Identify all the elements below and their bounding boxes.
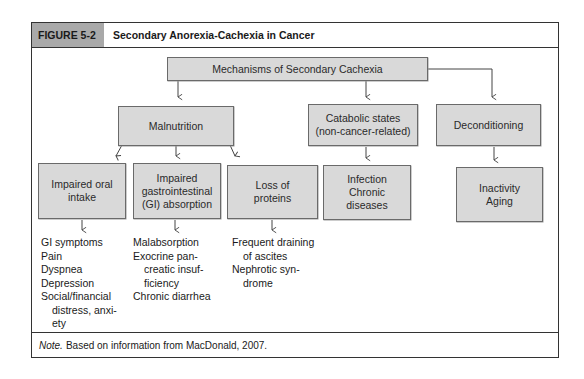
list-item: distress, anxi- — [41, 304, 117, 318]
inactivity-label-1: Inactivity — [479, 182, 520, 195]
list-item: of ascites — [232, 250, 314, 264]
malnutrition-label: Malnutrition — [149, 120, 203, 133]
list-protein-loss-causes: Frequent draining of ascites Nephrotic s… — [232, 236, 314, 290]
figure-title: Secondary Anorexia-Cachexia in Cancer — [104, 23, 315, 47]
list-gi-absorption-causes: Malabsorption Exocrine pan- creatic insu… — [133, 236, 211, 304]
oral-label-1: Impaired oral — [51, 178, 112, 191]
note-label: Note. — [39, 340, 63, 351]
box-deconditioning: Deconditioning — [436, 104, 541, 146]
box-impaired-gi-absorption: Impaired gastrointestinal (GI) absorptio… — [133, 163, 221, 219]
figure-label: FIGURE 5-2 — [32, 23, 104, 47]
note-text: Based on information from MacDonald, 200… — [66, 340, 267, 351]
oral-label-2: intake — [68, 191, 96, 204]
infection-label-2: Chronic — [349, 186, 385, 199]
gi-label-1: Impaired — [157, 172, 198, 185]
box-impaired-oral-intake: Impaired oral intake — [38, 163, 126, 219]
infection-label-3: diseases — [346, 199, 387, 212]
catabolic-label-2: (non-cancer-related) — [315, 125, 410, 138]
list-item: Nephrotic syn- — [232, 263, 314, 277]
list-item: Malabsorption — [133, 236, 211, 250]
box-malnutrition: Malnutrition — [118, 106, 234, 146]
infection-label-1: Infection — [347, 173, 387, 186]
root-label: Mechanisms of Secondary Cachexia — [212, 63, 382, 76]
box-loss-of-proteins: Loss of proteins — [227, 165, 318, 219]
box-inactivity-aging: Inactivity Aging — [456, 167, 543, 222]
gi-label-2: gastrointestinal — [142, 185, 213, 198]
list-oral-intake-causes: GI symptoms Pain Dyspnea Depression Soci… — [41, 236, 117, 331]
list-item: Chronic diarrhea — [133, 290, 211, 304]
box-mechanisms-root: Mechanisms of Secondary Cachexia — [167, 57, 428, 81]
box-catabolic-states: Catabolic states (non-cancer-related) — [308, 104, 418, 146]
catabolic-label-1: Catabolic states — [326, 112, 401, 125]
figure-header: FIGURE 5-2 Secondary Anorexia-Cachexia i… — [32, 23, 558, 48]
deconditioning-label: Deconditioning — [454, 119, 523, 132]
list-item: Dyspnea — [41, 263, 117, 277]
list-item: Social/financial — [41, 290, 117, 304]
proteins-label-1: Loss of — [256, 179, 290, 192]
gi-label-3: (GI) absorption — [142, 198, 212, 211]
list-item: Frequent draining — [232, 236, 314, 250]
list-item: drome — [232, 277, 314, 291]
list-item: creatic insuf- — [133, 263, 211, 277]
list-item: GI symptoms — [41, 236, 117, 250]
list-item: ficiency — [133, 277, 211, 291]
list-item: ety — [41, 317, 117, 331]
list-item: Pain — [41, 250, 117, 264]
proteins-label-2: proteins — [254, 192, 291, 205]
list-item: Exocrine pan- — [133, 250, 211, 264]
list-item: Depression — [41, 277, 117, 291]
box-infection-chronic-diseases: Infection Chronic diseases — [323, 165, 411, 220]
inactivity-label-2: Aging — [486, 195, 513, 208]
figure-note: Note. Based on information from MacDonal… — [32, 332, 558, 357]
